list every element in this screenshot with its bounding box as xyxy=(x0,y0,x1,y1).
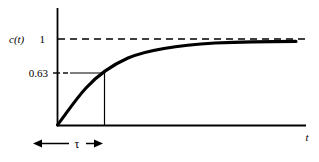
tau-annotation-label: τ xyxy=(75,137,80,151)
y-axis-tick-label-063: 0.63 xyxy=(29,67,49,79)
step-response-chart: c(t) 1 0.63 τ t xyxy=(0,0,319,162)
y-axis-function-label: c(t) xyxy=(9,33,25,46)
figure-container: c(t) 1 0.63 τ t xyxy=(0,0,319,162)
chart-background xyxy=(0,0,319,162)
y-axis-tick-label-1: 1 xyxy=(40,33,46,45)
